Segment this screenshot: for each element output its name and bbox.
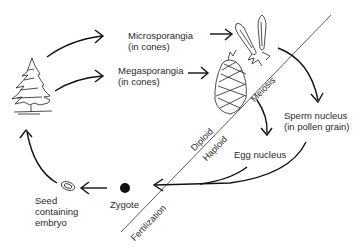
microsporangia-label: Microsporangia (in cones) bbox=[128, 30, 193, 52]
egg-nucleus-label: Egg nucleus bbox=[234, 149, 286, 160]
zygote-icon bbox=[120, 183, 130, 193]
sperm-nucleus-label: Sperm nucleus (in pollen grain) bbox=[284, 110, 349, 132]
arrow-to-egg-nucleus bbox=[257, 100, 272, 135]
arrow-zygote-to-seed bbox=[81, 182, 107, 194]
arrow-into-male-cone bbox=[210, 29, 232, 40]
female-cone-icon bbox=[215, 50, 247, 114]
zygote-label: Zygote bbox=[110, 199, 139, 210]
pine-tree-icon bbox=[12, 58, 52, 114]
seed-label: Seed containing embryo bbox=[35, 195, 78, 228]
arrow-into-female-cone bbox=[188, 67, 208, 79]
arrow-to-sperm-nucleus bbox=[278, 48, 323, 102]
megasporangia-label: Megasporangia (in cones) bbox=[118, 65, 184, 87]
seed-icon bbox=[60, 180, 76, 192]
arrow-seed-to-tree bbox=[20, 130, 57, 183]
arrow-tree-to-microsporangia bbox=[47, 30, 103, 57]
arrow-tree-to-megasporangia bbox=[55, 70, 103, 91]
male-cone-icon bbox=[235, 15, 270, 66]
